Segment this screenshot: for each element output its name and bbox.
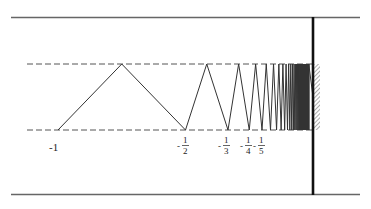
svg-text:-: - <box>177 141 180 151</box>
svg-text:5: 5 <box>259 146 264 156</box>
label-minus-third: - 1 3 <box>218 135 230 156</box>
label-minus-half: - 1 2 <box>177 135 189 156</box>
svg-text:-: - <box>240 141 243 151</box>
label-minus-fifth: - 1 5 <box>253 135 265 156</box>
svg-text:2: 2 <box>183 146 188 156</box>
svg-text:1: 1 <box>246 135 251 145</box>
svg-text:1: 1 <box>183 135 188 145</box>
svg-text:4: 4 <box>246 146 251 156</box>
label-minus-quarter: - 1 4 <box>240 135 252 156</box>
zigzag-diagram: -1 - 1 2 - 1 3 - 1 4 - 1 5 <box>0 0 371 209</box>
svg-text:-: - <box>253 141 256 151</box>
svg-text:-1: -1 <box>49 141 58 153</box>
svg-text:1: 1 <box>224 135 229 145</box>
zigzag-path <box>58 64 313 130</box>
svg-text:-: - <box>218 141 221 151</box>
svg-text:3: 3 <box>224 146 229 156</box>
svg-text:1: 1 <box>259 135 264 145</box>
label-minus-one: -1 <box>49 141 58 153</box>
